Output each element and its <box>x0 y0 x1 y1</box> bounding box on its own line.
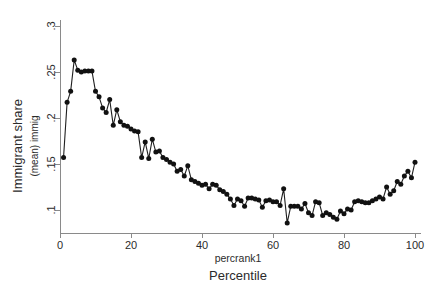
data-point <box>285 220 290 225</box>
x-tick-label: 100 <box>406 239 424 251</box>
data-point <box>260 205 265 210</box>
data-point <box>146 156 151 161</box>
immigrant-share-line-chart: .1.15.2.25.3 020406080100 Immigrant shar… <box>0 0 431 292</box>
x-axis-label-primary: Percentile <box>209 268 267 283</box>
data-point <box>281 186 286 191</box>
data-point <box>150 137 155 142</box>
data-point <box>118 119 123 124</box>
data-point <box>388 192 393 197</box>
x-tick-label: 40 <box>196 239 208 251</box>
data-point <box>409 175 414 180</box>
y-axis-label-primary: Immigrant share <box>10 99 25 193</box>
x-tick-group: 020406080100 <box>57 233 424 251</box>
x-tick-label: 20 <box>125 239 137 251</box>
data-point <box>139 155 144 160</box>
data-point <box>299 207 304 212</box>
data-point <box>342 211 347 216</box>
data-point <box>61 155 66 160</box>
data-point <box>349 208 354 213</box>
x-tick-label: 80 <box>338 239 350 251</box>
chart-figure: .1.15.2.25.3 020406080100 Immigrant shar… <box>0 0 431 292</box>
data-point <box>398 182 403 187</box>
data-point <box>402 173 407 178</box>
data-point <box>68 89 73 94</box>
x-axis: 020406080100 <box>57 233 424 251</box>
data-point <box>203 182 208 187</box>
data-point <box>310 213 315 218</box>
data-point <box>157 149 162 154</box>
data-point <box>256 197 261 202</box>
data-point <box>228 196 233 201</box>
data-point <box>207 186 212 191</box>
data-point <box>114 107 119 112</box>
data-point <box>274 199 279 204</box>
y-tick-label: .1 <box>45 205 57 214</box>
data-point <box>391 188 396 193</box>
data-point <box>381 196 386 201</box>
data-point <box>104 110 109 115</box>
data-point <box>171 162 176 167</box>
data-point <box>178 167 183 172</box>
y-tick-label: .3 <box>45 21 57 30</box>
data-point <box>302 201 307 206</box>
data-point <box>278 203 283 208</box>
data-point <box>231 203 236 208</box>
data-point <box>97 94 102 99</box>
y-axis-label-secondary: (mean) immig <box>29 115 40 176</box>
data-point <box>93 89 98 94</box>
data-point <box>182 173 187 178</box>
y-tick-label: .2 <box>45 113 57 122</box>
data-point <box>334 217 339 222</box>
y-tick-label: .15 <box>45 156 57 171</box>
data-point <box>65 100 70 105</box>
data-point <box>317 200 322 205</box>
data-series-group <box>61 58 417 226</box>
data-point <box>239 198 244 203</box>
data-point <box>111 123 116 128</box>
data-point <box>224 192 229 197</box>
data-point <box>413 160 418 165</box>
data-point <box>242 204 247 209</box>
data-point <box>143 139 148 144</box>
data-point <box>107 97 112 102</box>
y-axis: .1.15.2.25.3 <box>45 20 60 233</box>
data-point <box>136 129 141 134</box>
y-tick-group: .1.15.2.25.3 <box>45 21 60 214</box>
y-tick-label: .25 <box>45 64 57 79</box>
data-point <box>405 169 410 174</box>
data-point <box>72 58 77 63</box>
x-tick-label: 0 <box>57 239 63 251</box>
data-point <box>185 163 190 168</box>
series-markers-immig <box>61 58 417 226</box>
data-point <box>89 69 94 74</box>
data-point <box>384 185 389 190</box>
data-point <box>214 183 219 188</box>
x-tick-label: 60 <box>267 239 279 251</box>
x-axis-label-secondary: percrank1 <box>215 252 262 264</box>
data-point <box>100 105 105 110</box>
